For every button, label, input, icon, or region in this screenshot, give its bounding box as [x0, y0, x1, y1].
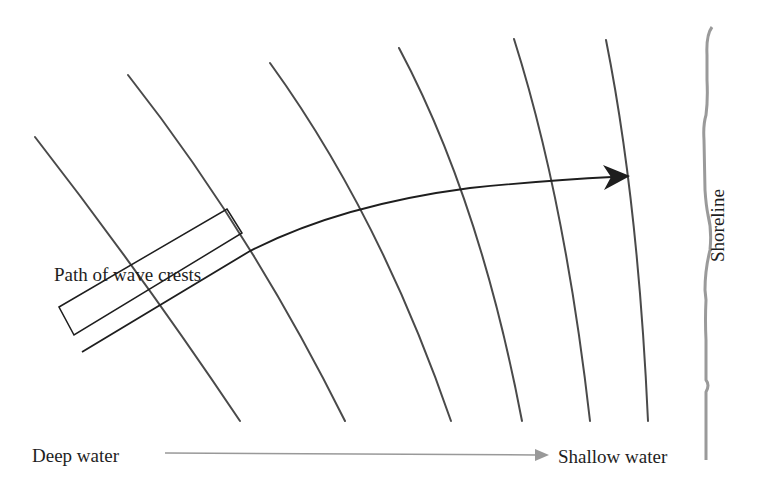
wave-crest-3	[270, 63, 451, 421]
depth-arrowhead-icon	[535, 449, 549, 461]
depth-arrow-line	[165, 453, 537, 455]
shallow-water-label: Shallow water	[558, 447, 667, 466]
path-of-wave-crests-label: Path of wave crests	[54, 265, 201, 284]
deep-water-label: Deep water	[32, 446, 119, 465]
shoreline-label: Shoreline	[708, 189, 727, 262]
wave-crest-6	[606, 40, 648, 421]
wave-refraction-diagram	[0, 0, 780, 491]
wave-crest-4	[399, 48, 522, 421]
wave-crest-5	[514, 39, 590, 421]
